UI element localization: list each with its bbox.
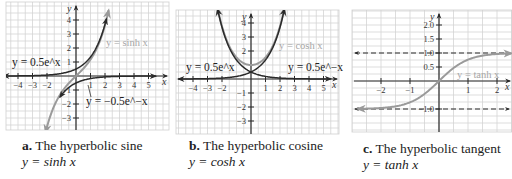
y-tick-label: 2.0 <box>423 20 434 30</box>
x-tick-label: 3 <box>117 80 121 90</box>
x-tick-label: 1 <box>466 85 470 95</box>
series-label-half-exp: y = 0.5e^x <box>186 61 235 74</box>
y-tick-label: −1 <box>237 88 246 98</box>
y-tick-label: −3 <box>237 116 246 126</box>
caption-a: a. The hyperbolic sine y = sinh x <box>22 138 142 170</box>
caption-c-equation: y = tanh x <box>363 157 418 172</box>
caption-b-equation: y = cosh x <box>189 154 245 169</box>
caption-c-letter: c. <box>363 141 372 156</box>
y-tick-label: 2 <box>242 46 246 56</box>
y-tick-label: 3 <box>67 29 71 39</box>
series-label-neg-half-exp-neg: y = −0.5e^−x <box>86 95 148 108</box>
y-tick-label: 2 <box>67 43 71 53</box>
x-tick-label: 3 <box>292 83 296 93</box>
caption-a-letter: a. <box>22 138 32 153</box>
series-label-tanh: y = tanh x <box>457 69 500 80</box>
x-tick-label: −1 <box>405 85 414 95</box>
x-tick-label: −4 <box>188 83 198 93</box>
y-tick-label: −3 <box>62 113 71 123</box>
x-tick-label: 5 <box>146 80 150 90</box>
caption-b-letter: b. <box>189 138 200 153</box>
series-label-sinh: y = sinh x <box>106 37 149 48</box>
caption-a-title: The hyperbolic sine <box>35 138 142 153</box>
x-axis-label: x <box>504 81 510 92</box>
x-tick-label: 4 <box>307 83 312 93</box>
x-tick-label: −2 <box>217 83 226 93</box>
y-tick-label: 3 <box>242 32 246 42</box>
series-label-half-exp-neg: y = 0.5e^−x <box>288 61 343 74</box>
x-tick-label: −4 <box>13 80 23 90</box>
x-tick-label: 1 <box>263 83 267 93</box>
series-line <box>46 10 109 132</box>
x-tick-label: −2 <box>376 85 385 95</box>
x-tick-label: 2 <box>278 83 282 93</box>
y-tick-label: 1 <box>67 57 71 67</box>
caption-c: c. The hyperbolic tangent y = tanh x <box>363 141 501 173</box>
x-tick-label: −2 <box>42 80 51 90</box>
series-label-half-exp: y = 0.5e^x <box>12 56 61 69</box>
series-label-cosh: y = cosh x <box>279 40 323 51</box>
y-tick-label: −2 <box>237 102 246 112</box>
y-axis-label: y <box>66 3 72 14</box>
x-tick-label: −3 <box>28 80 37 90</box>
x-axis-label: x <box>161 76 167 87</box>
x-tick-label: 4 <box>132 80 137 90</box>
caption-b-title: The hyperbolic cosine <box>203 138 323 153</box>
caption-c-title: The hyperbolic tangent <box>376 141 501 156</box>
caption-a-equation: y = sinh x <box>22 154 76 169</box>
x-tick-label: −3 <box>203 83 212 93</box>
x-tick-label: 5 <box>321 83 325 93</box>
x-tick-label: 2 <box>103 80 107 90</box>
x-tick-label: 2 <box>495 85 499 95</box>
x-axis-label: x <box>331 79 337 90</box>
y-tick-label: 1.5 <box>423 34 434 44</box>
series-group <box>4 10 156 132</box>
y-tick-label: 0.5 <box>423 62 434 72</box>
y-tick-label: −2 <box>62 99 71 109</box>
caption-b: b. The hyperbolic cosine y = cosh x <box>189 138 323 170</box>
